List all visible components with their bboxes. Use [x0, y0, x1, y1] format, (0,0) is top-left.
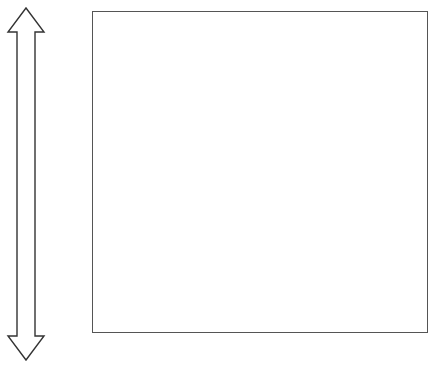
- cohort-age-banner: [0, 0, 442, 372]
- chart-figure: [0, 0, 442, 372]
